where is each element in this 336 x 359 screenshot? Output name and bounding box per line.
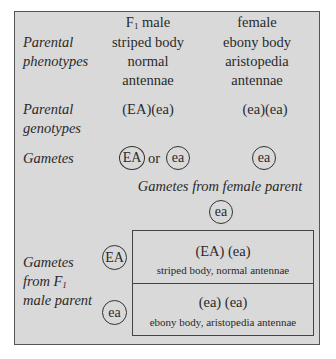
male-gamete-ea-upper: EA: [119, 146, 145, 170]
label-gametes: Gametes: [23, 149, 74, 168]
gamete-or-text: or: [148, 149, 160, 168]
label-parental-phenotypes-1: Parental: [23, 33, 73, 52]
offspring-2-phenotype: ebony body, aristopedia antennae: [133, 316, 313, 328]
male-phenotype-2: normal: [93, 52, 203, 71]
label-f-sub: 1: [62, 280, 67, 290]
male-header-f: F: [126, 14, 134, 30]
offspring-1-phenotype: striped body, normal antennae: [133, 264, 313, 276]
female-header: female: [202, 13, 312, 32]
label-male-gametes-1: Gametes: [23, 253, 74, 272]
male-genotype: (EA)(ea): [93, 100, 203, 119]
offspring-divider: [133, 283, 313, 284]
male-phenotype-3: antennae: [93, 71, 203, 90]
label-from-f: from F: [23, 273, 62, 289]
cross-male-gamete-2: ea: [102, 300, 127, 325]
female-genotype: (ea)(ea): [210, 100, 320, 119]
male-header-rest: male: [138, 14, 170, 30]
offspring-2-genotype: (ea) (ea): [133, 294, 313, 311]
label-male-gametes-3: male parent: [23, 291, 92, 310]
label-parental-genotypes-1: Parental: [23, 100, 73, 119]
offspring-box: (EA) (ea) striped body, normal antennae …: [132, 230, 314, 336]
label-parental-genotypes-2: genotypes: [23, 119, 81, 138]
male-phenotype-1: striped body: [93, 33, 203, 52]
female-phenotype-3: antennae: [202, 71, 312, 90]
cross-male-gamete-1: EA: [102, 245, 127, 270]
label-parental-phenotypes-2: phenotypes: [23, 52, 88, 71]
cross-female-gamete: ea: [209, 200, 233, 224]
label-female-gametes: Gametes from female parent: [120, 177, 320, 196]
offspring-1-genotype: (EA) (ea): [133, 243, 313, 260]
female-phenotype-1: ebony body: [202, 33, 312, 52]
female-gamete: ea: [252, 146, 276, 170]
male-gamete-ea-lower: ea: [166, 146, 190, 170]
female-phenotype-2: aristopedia: [202, 52, 312, 71]
